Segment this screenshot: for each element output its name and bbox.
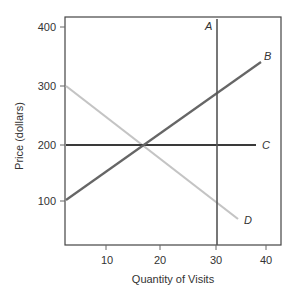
line-B-label: B xyxy=(264,50,271,62)
y-axis: 400 300 200 100 Price (dollars) xyxy=(13,21,65,207)
x-axis-title: Quantity of Visits xyxy=(132,273,215,285)
line-D xyxy=(66,86,238,219)
line-B xyxy=(66,62,261,200)
y-axis-title: Price (dollars) xyxy=(13,102,25,170)
x-tick-label: 40 xyxy=(260,254,272,266)
y-tick-label: 400 xyxy=(38,21,56,33)
y-tick-label: 100 xyxy=(38,195,56,207)
y-tick-label: 300 xyxy=(38,80,56,92)
price-quantity-chart: 400 300 200 100 Price (dollars) 10 20 30… xyxy=(0,0,298,296)
x-tick-label: 20 xyxy=(154,254,166,266)
x-tick-label: 10 xyxy=(101,254,113,266)
plot-frame xyxy=(65,17,281,245)
y-tick-label: 200 xyxy=(38,139,56,151)
line-C-label: C xyxy=(262,139,270,151)
line-A-label: A xyxy=(204,20,212,32)
line-D-label: D xyxy=(244,214,252,226)
x-axis: 10 20 30 40 Quantity of Visits xyxy=(101,245,272,285)
x-tick-label: 30 xyxy=(210,254,222,266)
